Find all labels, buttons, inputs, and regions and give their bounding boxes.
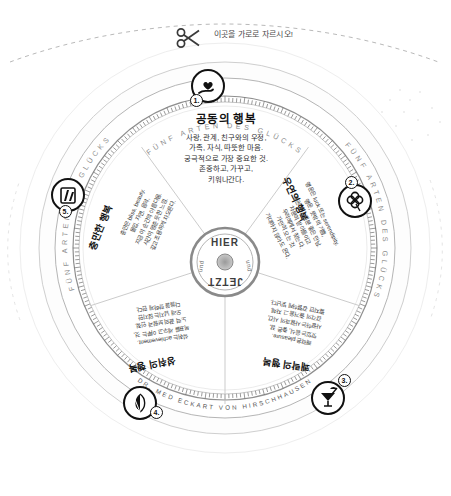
hub-word-jetzt: JETZT [207, 276, 243, 287]
segment-number-2: 2. [345, 176, 358, 189]
flow-state-icon [56, 183, 80, 207]
happiness-wheel-sheet: FÜNF ARTEN DES GLÜCKS FÜNF ARTEN DES GLÜ… [0, 0, 451, 496]
segment-number-5: 5. [59, 205, 72, 218]
halo-dash-left [8, 180, 20, 320]
peacock-fan-icon [128, 391, 152, 415]
segment-number-4: 4. [150, 406, 163, 419]
scissors-icon [175, 26, 201, 50]
cut-instruction-text: 이곳을 가로로 자르시오! [214, 28, 293, 39]
corner-stipple [381, 89, 441, 141]
cocktail-glass-icon [316, 386, 340, 410]
wheel-graphic: FÜNF ARTEN DES GLÜCKS FÜNF ARTEN DES GLÜ… [0, 0, 451, 496]
hub-center-dot [217, 254, 233, 270]
halo-dash-right [430, 180, 442, 320]
segment-number-1: 1. [190, 94, 203, 107]
segment-number-3: 3. [338, 374, 351, 387]
four-leaf-clover-icon [343, 189, 367, 213]
segment-icon-2[interactable] [338, 184, 372, 218]
hub-word-hier: HIER [211, 237, 239, 248]
segment-icon-3[interactable] [311, 381, 345, 415]
